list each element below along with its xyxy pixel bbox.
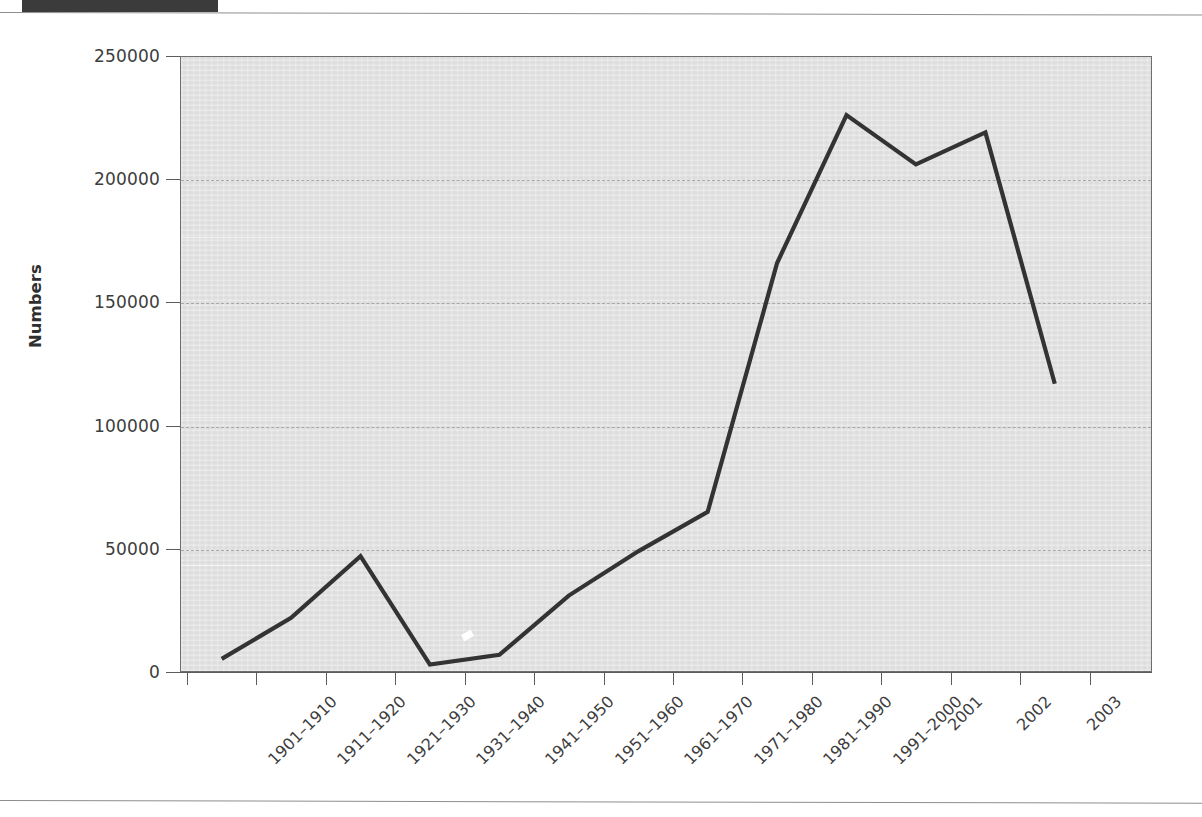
paper-texture (181, 57, 1151, 671)
x-axis-tick (604, 672, 605, 685)
y-axis-tick (166, 672, 180, 673)
x-axis-tick-label-wrap: 1971–1980 (750, 692, 827, 769)
x-axis-tick-label: 1931–1940 (472, 692, 549, 769)
gridline (181, 303, 1151, 304)
gridline (181, 180, 1151, 181)
x-axis-tick-label-wrap: 1981–1990 (819, 692, 896, 769)
x-axis-tick-label-wrap: 1931–1940 (472, 692, 549, 769)
y-axis-tick-label: 200000 (94, 169, 160, 189)
x-axis-tick-label: 2002 (1013, 692, 1055, 734)
scanned-page: 050000100000150000200000250000 Numbers 1… (0, 0, 1202, 817)
x-axis-tick-label-wrap: 2002 (1013, 692, 1055, 734)
x-axis-tick-label: 1911–1920 (333, 692, 410, 769)
y-axis-tick (166, 179, 180, 180)
line-chart: 050000100000150000200000250000 Numbers 1… (0, 0, 1202, 817)
plot-area (180, 56, 1152, 672)
x-axis-tick (881, 672, 882, 685)
y-axis-tick-label: 150000 (94, 292, 160, 312)
x-axis-tick-label: 1901–1910 (264, 692, 341, 769)
y-axis-title: Numbers (26, 264, 45, 348)
scan-band (181, 565, 1151, 566)
gridline (181, 427, 1151, 428)
x-axis-tick-label: 1961–1970 (680, 692, 757, 769)
gridline (181, 550, 1151, 551)
x-axis-tick (465, 672, 466, 685)
x-axis-tick (395, 672, 396, 685)
x-axis-tick-label-wrap: 1941–1950 (542, 692, 619, 769)
x-axis-tick-label-wrap: 1901–1910 (264, 692, 341, 769)
x-axis-tick (1020, 672, 1021, 685)
x-axis-tick (187, 672, 188, 685)
x-axis-tick (534, 672, 535, 685)
y-axis-tick-label: 50000 (105, 539, 160, 559)
x-axis-tick (256, 672, 257, 685)
scan-band (181, 237, 1151, 238)
x-axis-tick-label: 2003 (1083, 692, 1125, 734)
y-axis (166, 56, 180, 672)
x-axis-tick-label: 1981–1990 (819, 692, 896, 769)
x-axis-tick-label: 1921–1930 (403, 692, 480, 769)
x-axis-tick (742, 672, 743, 685)
scan-band (181, 417, 1151, 418)
y-axis-tick-label: 250000 (94, 46, 160, 66)
x-axis-tick (1090, 672, 1091, 685)
x-axis-tick (326, 672, 327, 685)
y-axis-tick-label: 0 (149, 662, 160, 682)
x-axis-tick-label: 1951–1960 (611, 692, 688, 769)
y-axis-tick (166, 549, 180, 550)
y-axis-tick (166, 302, 180, 303)
y-axis-tick (166, 426, 180, 427)
x-axis-tick (673, 672, 674, 685)
x-axis-tick-label-wrap: 1951–1960 (611, 692, 688, 769)
y-axis-tick-label: 100000 (94, 416, 160, 436)
x-axis-tick-label: 1941–1950 (542, 692, 619, 769)
x-axis-tick-label-wrap: 1921–1930 (403, 692, 480, 769)
x-axis-tick-label: 1971–1980 (750, 692, 827, 769)
x-axis-tick (951, 672, 952, 685)
x-axis-tick-label-wrap: 1911–1920 (333, 692, 410, 769)
x-axis-tick-label-wrap: 2003 (1083, 692, 1125, 734)
y-axis-tick (166, 56, 180, 57)
x-axis-tick-label-wrap: 1961–1970 (680, 692, 757, 769)
x-axis-tick (812, 672, 813, 685)
